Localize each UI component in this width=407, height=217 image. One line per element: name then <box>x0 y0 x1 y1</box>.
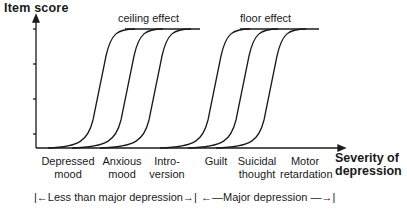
category-depressed-mood: Depressed mood <box>38 155 98 180</box>
x-axis-label-line2: depression <box>335 165 402 178</box>
category-guilt: Guilt <box>199 155 233 168</box>
category-suicidal-thought: Suicidal thought <box>234 155 280 180</box>
category-line2: mood <box>99 168 145 181</box>
curve-motor-retardation <box>216 29 306 148</box>
range-major-depression: ←—Major depression —→| <box>201 191 335 203</box>
category-line1: Depressed <box>38 155 98 168</box>
category-line2: version <box>146 168 188 181</box>
category-line1: Suicidal <box>234 155 280 168</box>
category-introversion: Intro- version <box>146 155 188 180</box>
curve-suicidal-thought <box>188 29 278 148</box>
curve-guilt <box>160 29 250 148</box>
category-line2: mood <box>38 168 98 181</box>
curve-introversion <box>100 29 191 148</box>
curve-anxious-mood <box>72 29 163 148</box>
range-less-than-major: |←Less than major depression→| <box>34 191 197 203</box>
category-line2: retardation <box>280 168 330 181</box>
category-line1: Motor <box>280 155 330 168</box>
category-motor-retardation: Motor retardation <box>280 155 330 180</box>
category-anxious-mood: Anxious mood <box>99 155 145 180</box>
category-line1: Anxious <box>99 155 145 168</box>
category-line1: Intro- <box>146 155 188 168</box>
category-line2: thought <box>234 168 280 181</box>
category-line1: Guilt <box>199 155 233 168</box>
curves-plot <box>0 0 407 217</box>
y-axis-arrow-icon <box>33 15 39 22</box>
x-axis-label: Severity of depression <box>335 152 402 178</box>
curve-depressed-mood <box>48 29 135 148</box>
